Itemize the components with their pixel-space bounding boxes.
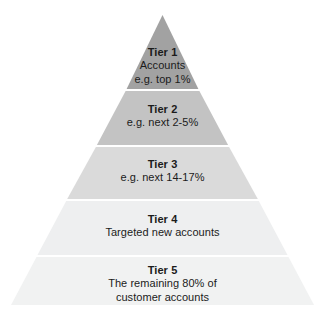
- tier-2-band[interactable]: [97, 91, 228, 145]
- pyramid-shape-group: [0, 0, 325, 320]
- tier-5-band[interactable]: [11, 257, 314, 305]
- tier-3-band[interactable]: [67, 147, 258, 199]
- pyramid-diagram: Tier 1 Accounts e.g. top 1% Tier 2 e.g. …: [0, 0, 325, 320]
- tier-1-band[interactable]: [127, 15, 199, 89]
- tier-4-band[interactable]: [38, 201, 288, 255]
